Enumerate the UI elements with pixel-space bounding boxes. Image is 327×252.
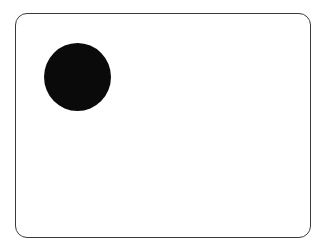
rounded-rectangle-frame [15, 13, 311, 238]
black-circle [44, 43, 111, 111]
